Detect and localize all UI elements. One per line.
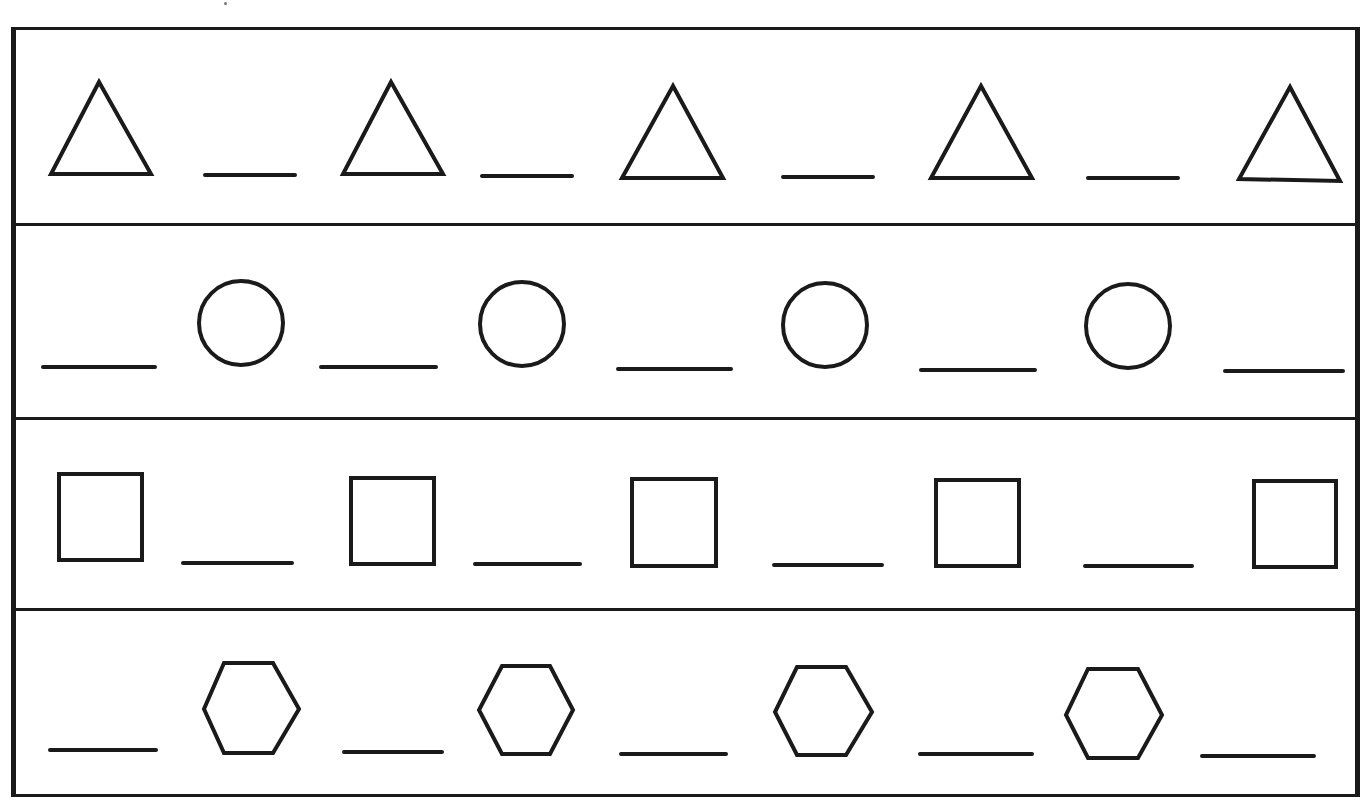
circle-icon [1086, 284, 1170, 368]
square-icon [351, 478, 434, 564]
triangle-icon [931, 86, 1032, 178]
hexagon-icon [775, 667, 872, 755]
triangle-icon [51, 82, 151, 174]
square-icon [936, 480, 1019, 566]
square-icon [59, 474, 142, 560]
hexagon-icon [1066, 669, 1162, 758]
triangle-icon [1239, 87, 1340, 181]
square-icon [1254, 481, 1336, 567]
triangle-icon [343, 82, 443, 174]
circle-icon [480, 282, 564, 366]
worksheet-page [0, 0, 1367, 806]
pattern-row-circles [16, 223, 1355, 417]
square-row-graphics [16, 420, 1355, 608]
print-speck [224, 2, 227, 5]
square-icon [632, 479, 716, 566]
circle-row-graphics [16, 226, 1355, 417]
triangle-icon [622, 86, 723, 178]
hexagon-icon [204, 663, 299, 753]
circle-icon [783, 283, 867, 367]
worksheet-frame [11, 27, 1360, 797]
pattern-row-squares [16, 417, 1355, 608]
pattern-row-hexagons [16, 608, 1355, 797]
triangle-row-graphics [16, 30, 1355, 223]
circle-icon [199, 281, 283, 365]
pattern-row-triangles [16, 30, 1355, 223]
hexagon-icon [479, 666, 573, 754]
hexagon-row-graphics [16, 611, 1355, 797]
